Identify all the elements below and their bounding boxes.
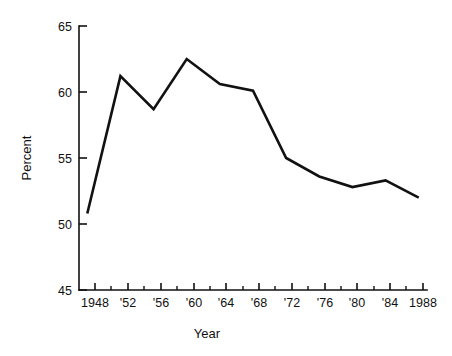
x-tick-label-1976: '76 — [317, 296, 333, 310]
x-tick-label-1960: '60 — [186, 296, 202, 310]
x-tick-label-1948: 1948 — [81, 296, 109, 310]
x-tick-label-1964: '64 — [218, 296, 234, 310]
y-axis-title: Percent — [19, 135, 34, 180]
x-tick-label-1988: 1988 — [409, 296, 437, 310]
x-tick-label-1968: '68 — [251, 296, 267, 310]
y-axis-tick-labels: 65 60 55 50 45 — [58, 20, 72, 298]
x-tick-label-1980: '80 — [349, 296, 365, 310]
x-tick-label-1984: '84 — [382, 296, 398, 310]
y-tick-label-45: 45 — [58, 284, 72, 298]
x-axis-tick-labels: 1948 '52 '56 '60 '64 '68 '72 '76 '80 '84… — [81, 296, 437, 310]
y-tick-label-65: 65 — [58, 20, 72, 34]
x-tick-label-1952: '52 — [120, 296, 136, 310]
y-tick-label-55: 55 — [58, 152, 72, 166]
data-series-line — [87, 59, 418, 213]
x-tick-label-1972: '72 — [284, 296, 300, 310]
line-chart-canvas: 65 60 55 50 45 — [0, 0, 452, 356]
y-tick-label-60: 60 — [58, 86, 72, 100]
chart-figure: 65 60 55 50 45 — [0, 0, 452, 356]
y-tick-label-50: 50 — [58, 218, 72, 232]
x-tick-label-1956: '56 — [153, 296, 169, 310]
x-axis-title: Year — [194, 326, 221, 341]
y-axis-ticks — [79, 26, 87, 290]
